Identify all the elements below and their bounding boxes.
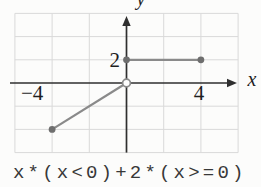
y-axis-label: y — [135, 0, 146, 10]
closed-endpoint-dot — [49, 126, 56, 133]
closed-endpoint-dot — [123, 56, 130, 63]
chart-canvas: −442xy — [0, 0, 261, 158]
closed-endpoint-dot — [198, 56, 205, 63]
open-endpoint-dot — [123, 79, 131, 87]
x-tick-label: 4 — [194, 81, 205, 105]
x-axis-label: x — [247, 68, 257, 90]
function-expression-caption: x*(x<0)+2*(x>=0) — [13, 162, 247, 184]
piecewise-function-figure: −442xy x*(x<0)+2*(x>=0) — [0, 0, 261, 187]
x-tick-label: −4 — [21, 81, 44, 105]
x-axis-arrowhead — [227, 79, 237, 87]
y-axis-arrowhead — [122, 16, 130, 26]
y-tick-label: 2 — [110, 48, 121, 72]
